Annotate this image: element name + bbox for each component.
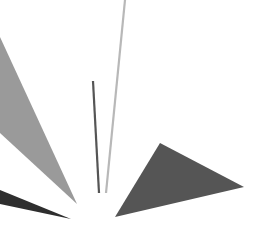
- abstract-shapes-canvas: [0, 0, 261, 241]
